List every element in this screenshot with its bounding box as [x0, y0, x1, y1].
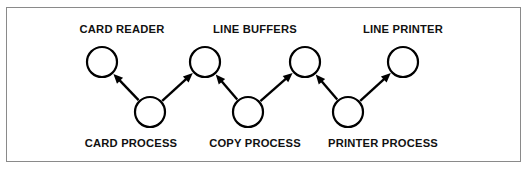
edge-card-process-to-line-buffer-1	[162, 73, 193, 101]
pipeline-diagram: CARD READERCARD PROCESSLINE BUFFERSCOPY …	[0, 0, 528, 173]
label-copy-process: COPY PROCESS	[209, 137, 301, 149]
edge-card-process-to-line-buffer-1-shaft	[162, 78, 187, 100]
label-line-buffer-1: LINE BUFFERS	[213, 23, 297, 35]
edge-copy-process-to-line-buffer-2-shaft	[260, 78, 286, 101]
figure-root: CARD READERCARD PROCESSLINE BUFFERSCOPY …	[0, 0, 528, 173]
edge-copy-process-to-line-buffer-1-shaft	[221, 81, 237, 100]
node-circle-copy-process	[233, 97, 263, 127]
node-circle-card-process	[135, 97, 165, 127]
label-line-printer: LINE PRINTER	[363, 23, 443, 35]
edge-printer-process-to-line-printer-shaft	[360, 78, 385, 100]
edge-copy-process-to-line-buffer-1	[216, 75, 237, 100]
node-circle-printer-process	[333, 97, 363, 127]
label-card-reader: CARD READER	[80, 23, 165, 35]
edge-copy-process-to-line-buffer-2	[260, 73, 292, 101]
edge-card-process-to-card-reader	[113, 74, 138, 100]
node-circle-line-buffer-1	[190, 47, 220, 77]
edge-printer-process-to-line-buffer-2	[316, 75, 337, 100]
edge-printer-process-to-line-printer	[360, 73, 391, 101]
nodes-layer	[87, 47, 418, 127]
label-card-process: CARD PROCESS	[85, 137, 178, 149]
label-printer-process: PRINTER PROCESS	[328, 137, 438, 149]
node-circle-card-reader	[87, 47, 117, 77]
edge-card-process-to-card-reader-shaft	[119, 80, 139, 100]
node-circle-line-buffer-2	[290, 47, 320, 77]
labels-layer: CARD READERCARD PROCESSLINE BUFFERSCOPY …	[80, 23, 443, 149]
node-circle-line-printer	[388, 47, 418, 77]
edge-printer-process-to-line-buffer-2-shaft	[321, 81, 337, 100]
